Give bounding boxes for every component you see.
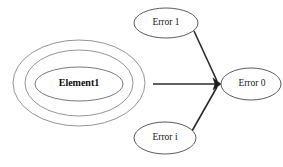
node-error-0[interactable]: Error 0: [221, 68, 281, 100]
diagram-root: Element1 Error 1 Error i Error 0: [0, 0, 283, 167]
edge-error1-to-error0: [194, 31, 217, 81]
node-error-1[interactable]: Error 1: [134, 8, 198, 38]
diagram-canvas: Element1 Error 1 Error i Error 0: [0, 0, 283, 167]
node-error-0-label: Error 0: [238, 78, 265, 88]
edge-error1-to-error0-line: [194, 31, 217, 81]
element1-container[interactable]: Element1: [13, 40, 145, 126]
edge-errori-to-error0-line: [192, 87, 217, 131]
element1-label: Element1: [59, 77, 100, 88]
node-error-i-label: Error i: [152, 132, 177, 142]
node-error-1-label: Error 1: [152, 17, 179, 27]
node-error-i[interactable]: Error i: [134, 122, 196, 154]
edge-errori-to-error0: [192, 87, 217, 131]
